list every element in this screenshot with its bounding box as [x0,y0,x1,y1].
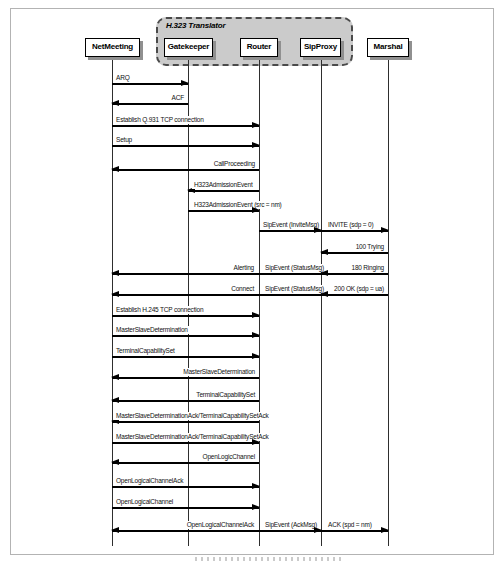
lifeline-sipproxy [321,56,322,546]
message-label: 180 Ringing [350,264,387,271]
message-arrow-msdack-left: MasterSlaveDeterminationAck/TerminalCapa… [112,421,259,423]
message-label: TerminalCapabilitySet [194,391,257,398]
message-label: MasterSlaveDetermination [181,368,257,375]
message-label: Establish H.245 TCP connection [114,306,205,313]
message-label: MasterSlaveDeterminationAck/TerminalCapa… [114,433,271,440]
message-label: MasterSlaveDetermination [114,326,190,333]
message-label: 100 Trying [354,243,386,250]
message-label: Setup [114,136,134,143]
message-label: ARQ [114,74,132,81]
participant-box-netmeeting: NetMeeting [85,38,140,57]
message-arrow-q931: Establish Q.931 TCP connection [112,125,259,127]
message-arrow-arq: ARQ [112,83,188,85]
message-label: OpenLogicalChannel [114,498,175,505]
message-label: MasterSlaveDeterminationAck/TerminalCapa… [114,412,271,419]
message-label: 200 OK (sdp = ua) [332,285,386,292]
lifeline-netmeeting [112,56,113,546]
message-arrow-h323admissionevent: H323AdmissionEvent [188,190,259,192]
message-label: OpenLogicalChannelAck [185,521,256,528]
message-arrow-olcack-right: OpenLogicalChannelAck [112,486,259,488]
message-arrow-olcack-ackmsg: OpenLogicalChannelAck SipEvent (AckMsg) [112,530,321,532]
message-arrow-callproceeding: CallProceeding [112,169,259,171]
message-arrow-alerting-statusmsg: Alerting SipEvent (StatusMsg) [112,273,321,275]
message-label: Establish Q.931 TCP connection [114,116,206,123]
message-arrow-openlogicchannel: OpenLogicChannel [112,462,259,464]
message-arrow-msdack-right: MasterSlaveDeterminationAck/TerminalCapa… [112,442,259,444]
participant-box-gatekeeper: Gatekeeper [164,38,213,57]
lifeline-gatekeeper [188,56,189,546]
message-label: OpenLogicalChannelAck [114,477,185,484]
message-arrow-msd-right: MasterSlaveDetermination [112,335,259,337]
participant-box-sipproxy: SipProxy [300,38,341,57]
message-label: H323AdmissionEvent [192,181,255,188]
caption-cutoff-fragment [195,557,345,561]
message-arrow-msd-left: MasterSlaveDetermination [112,377,259,379]
message-arrow-200-ok: 200 OK (sdp = ua) [321,294,388,296]
message-label: SipEvent (InviteMsg) [261,221,321,228]
message-arrow-olc-right: OpenLogicalChannel [112,507,259,509]
lifeline-marshal [388,56,389,546]
message-arrow-invite: INVITE (sdp = 0) [321,230,388,232]
message-arrow-100-trying: 100 Trying [321,252,388,254]
message-label: SipEvent (StatusMsg) [263,285,326,292]
message-arrow-h323admissionevent-src: H323AdmissionEvent (src = nm) [188,210,259,212]
message-label: INVITE (sdp = 0) [326,221,375,228]
message-label: TerminalCapabilitySet [114,347,177,354]
message-arrow-acf: ACF [112,103,188,105]
participant-box-marshal: Marshal [367,38,409,57]
participant-box-router: Router [240,38,278,57]
message-label: H323AdmissionEvent (src = nm) [192,201,284,208]
message-arrow-180-ringing: 180 Ringing [321,273,388,275]
message-arrow-connect-statusmsg: Connect SipEvent (StatusMsg) [112,294,321,296]
lifeline-router [259,56,260,546]
message-arrow-setup: Setup [112,145,259,147]
message-label: ACF [170,94,186,101]
message-label: CallProceeding [212,160,257,167]
figure-border [10,8,494,555]
message-label: OpenLogicChannel [201,453,257,460]
h323-translator-title: H.323 Translator [166,21,225,30]
message-label: Alerting [232,264,256,271]
message-label: SipEvent (AckMsg) [263,521,319,528]
message-arrow-sipevent-invitemsg: SipEvent (InviteMsg) [259,230,321,232]
message-label: Connect [229,285,256,292]
message-arrow-h245: Establish H.245 TCP connection [112,315,259,317]
message-arrow-tcs-left: TerminalCapabilitySet [112,400,259,402]
message-label: SipEvent (StatusMsg) [263,264,326,271]
message-label: ACK (spd = nm) [326,521,374,528]
message-arrow-tcs-right: TerminalCapabilitySet [112,356,259,358]
message-arrow-ack: ACK (spd = nm) [321,530,388,532]
